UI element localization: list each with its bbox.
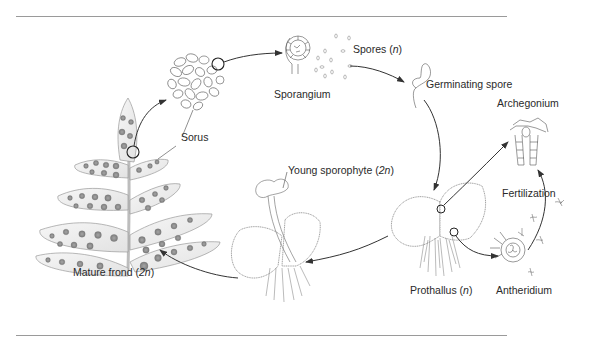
sporangium-highlight <box>212 58 224 70</box>
antheridium-label-text: Antheridium <box>496 284 552 296</box>
prothallus-illustration <box>391 183 485 246</box>
prothallus-label-text: Prothallus ( <box>410 284 463 296</box>
young-sporophyte-label-close: ) <box>390 164 394 176</box>
germinating-spore-label-text: Germinating spore <box>426 78 512 90</box>
sperm-illustrations <box>518 198 564 276</box>
label-sorus: Sorus <box>181 132 208 143</box>
fertilization-label-text: Fertilization <box>502 187 556 199</box>
mature-frond-ploidy: 2n <box>139 266 151 278</box>
arrow-germinating-to-prothallus <box>424 100 440 190</box>
antheridium-illustration <box>490 232 525 262</box>
arrow-fertilization <box>528 170 545 250</box>
arrow-spores-to-germinating <box>350 66 404 82</box>
prothallus-label-close: ) <box>469 284 473 296</box>
archegonium-illustration <box>510 118 548 165</box>
label-archegonium: Archegonium <box>497 98 559 109</box>
archegonium-label-text: Archegonium <box>497 97 559 109</box>
arrow-sorus-to-sporangium <box>224 53 282 62</box>
sporangium-illustration <box>286 36 310 74</box>
label-mature-frond: Mature frond (2n) <box>73 267 154 278</box>
sporangium-label-text: Sporangium <box>274 88 331 100</box>
spores-label-text: Spores ( <box>353 43 393 55</box>
spores-label-close: ) <box>399 43 403 55</box>
label-spores: Spores (n) <box>353 44 402 55</box>
sorus-label-text: Sorus <box>181 131 208 143</box>
label-sporangium: Sporangium <box>274 89 331 100</box>
young-sporophyte-illustration <box>231 179 320 278</box>
mature-frond-label-close: ) <box>151 266 155 278</box>
label-germinating-spore: Germinating spore <box>426 79 512 90</box>
sorus-cluster-illustration <box>166 53 224 112</box>
label-fertilization: Fertilization <box>502 188 556 199</box>
spores-illustration <box>315 34 352 79</box>
mature-frond-label-text: Mature frond ( <box>73 266 139 278</box>
label-young-sporophyte: Young sporophyte (2n) <box>288 165 394 176</box>
leader-lines <box>158 110 287 188</box>
young-sporophyte-ploidy: 2n <box>379 164 391 176</box>
label-prothallus: Prothallus (n) <box>410 285 472 296</box>
label-antheridium: Antheridium <box>496 285 552 296</box>
arrow-frond-to-sorus <box>134 100 166 146</box>
young-sporophyte-label-text: Young sporophyte ( <box>288 164 379 176</box>
